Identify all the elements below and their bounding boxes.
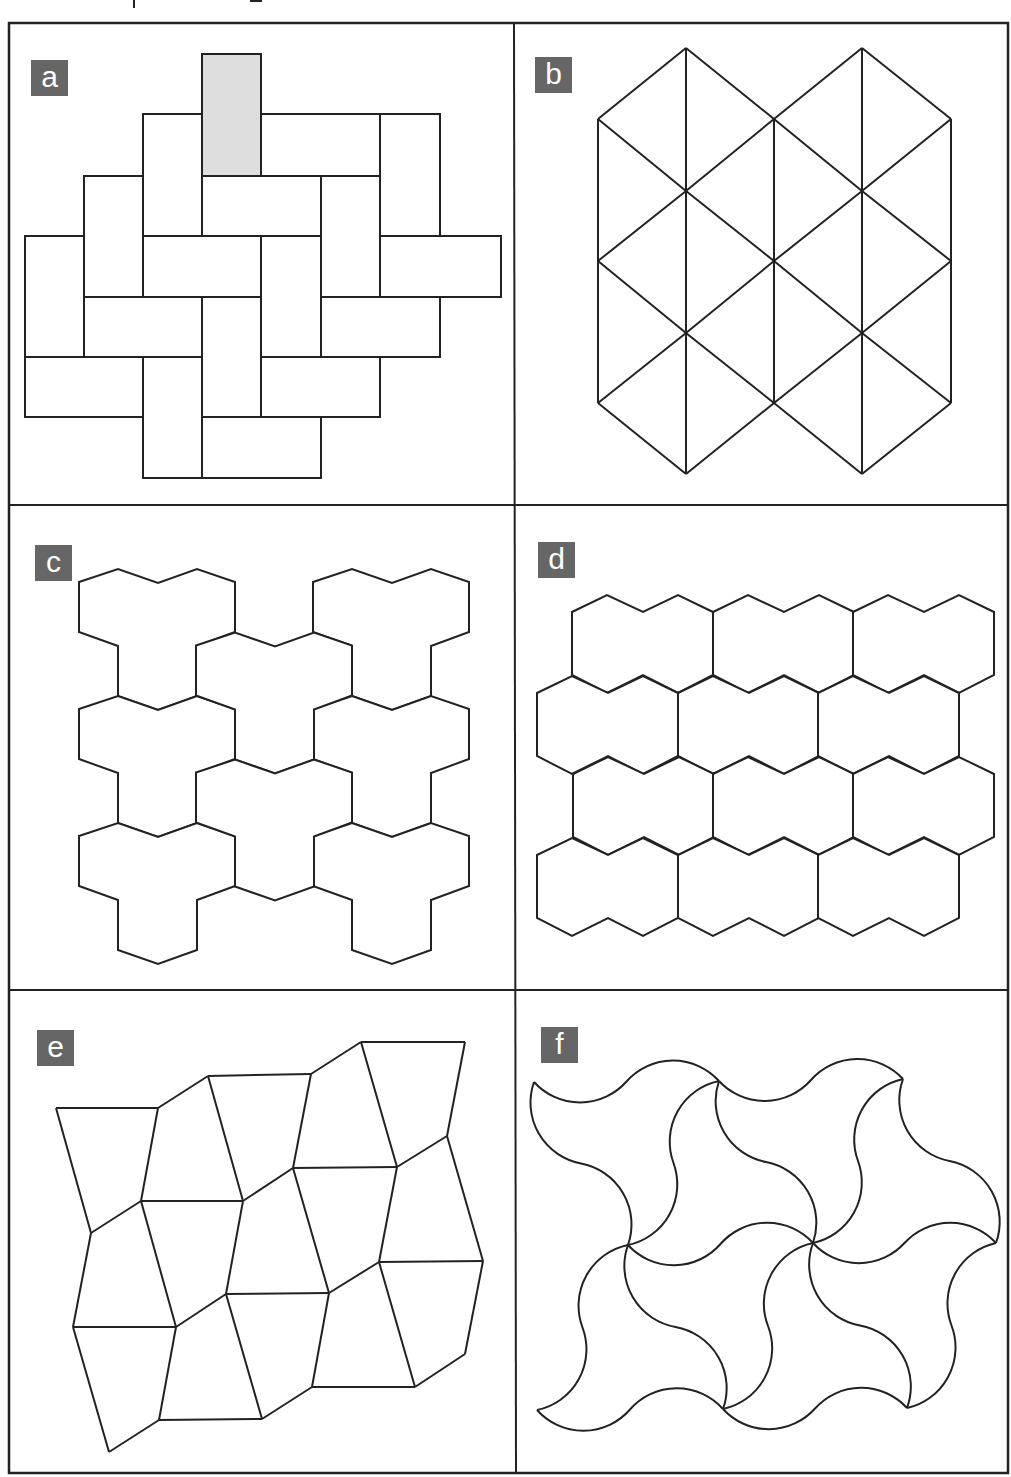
triangle-edge xyxy=(598,261,686,333)
panel-label-f: f xyxy=(541,1027,578,1063)
s-curve-edge xyxy=(899,1079,999,1243)
s-curve-edge xyxy=(537,1245,628,1410)
quad-edge xyxy=(329,1262,379,1293)
s-curve-edge xyxy=(716,1081,817,1243)
panel-label-d: d xyxy=(538,542,575,578)
rectangle-tile xyxy=(84,176,143,297)
rectangle-tile xyxy=(202,417,321,478)
rectangle-tile xyxy=(202,297,261,417)
panel-label-e: e xyxy=(37,1030,74,1066)
quad-edge xyxy=(311,1042,361,1074)
quad-edge xyxy=(262,1387,312,1419)
quad-edge xyxy=(312,1293,329,1387)
quad-edge xyxy=(293,1167,397,1168)
triangle-edge xyxy=(774,333,862,403)
quad-edge xyxy=(379,1262,415,1387)
s-curve-edge xyxy=(809,1243,911,1408)
triangle-edge xyxy=(774,48,862,119)
quad-edge xyxy=(208,1074,311,1076)
triangle-edge xyxy=(774,191,862,261)
rectangle-tile xyxy=(261,357,380,417)
s-curve-edge xyxy=(628,1081,719,1245)
quad-edge xyxy=(379,1167,397,1262)
s-curve-edge xyxy=(907,1243,996,1408)
s-curve-edge xyxy=(813,1079,903,1243)
rectangle-tile xyxy=(143,236,261,297)
quad-edge xyxy=(141,1201,176,1327)
triangle-edge xyxy=(862,48,951,119)
quad-edge xyxy=(293,1074,311,1168)
quad-edge xyxy=(56,1108,91,1233)
quad-edge xyxy=(379,1261,483,1262)
quad-edge xyxy=(361,1042,397,1167)
quad-edge xyxy=(243,1168,293,1201)
caption-descender-fragment xyxy=(133,0,135,8)
panel-f-curved-triangle-tiling xyxy=(530,1059,999,1431)
rectangle-tile xyxy=(261,114,380,176)
triangle-edge xyxy=(686,119,774,191)
rectangle-tile xyxy=(143,357,202,478)
quad-edge xyxy=(159,1419,262,1420)
figure-canvas xyxy=(0,0,1011,1477)
rectangle-tile xyxy=(84,297,202,357)
triangle-edge xyxy=(686,48,774,119)
triangle-edge xyxy=(598,48,686,119)
panel-d-zigzag-hexagon-tiles xyxy=(537,595,994,936)
s-curve-edge xyxy=(723,1243,813,1409)
panel-label-a: a xyxy=(31,60,68,96)
rectangle-tile xyxy=(261,236,321,357)
triangle-edge xyxy=(774,261,862,333)
quad-edge xyxy=(158,1076,208,1108)
rectangle-tile xyxy=(25,236,84,357)
panel-a-basketweave-rectangles xyxy=(25,54,501,478)
quad-edge xyxy=(109,1420,159,1452)
quad-edge xyxy=(447,1042,465,1136)
triangle-edge xyxy=(598,403,686,474)
quad-edge xyxy=(293,1168,329,1293)
s-curve-edge xyxy=(719,1059,903,1101)
s-curve-edge xyxy=(624,1245,726,1409)
caption-descender-fragment xyxy=(250,0,262,2)
quad-edge xyxy=(397,1136,447,1167)
quad-edge xyxy=(447,1136,483,1261)
panel-e-quadrilateral-tiling xyxy=(56,1042,483,1452)
s-curve-edge xyxy=(534,1061,719,1103)
quad-edge xyxy=(73,1327,109,1452)
quad-edge xyxy=(226,1201,243,1294)
quad-edge xyxy=(141,1108,158,1201)
triangle-edge xyxy=(598,119,686,191)
rectangle-tile xyxy=(25,357,143,417)
s-curve-edge xyxy=(628,1223,813,1265)
quad-edge xyxy=(159,1327,176,1420)
triangle-edge xyxy=(862,261,951,333)
triangle-edge xyxy=(862,333,951,403)
triangle-edge xyxy=(598,333,686,403)
panel-divider xyxy=(514,23,516,1473)
polygon-tile xyxy=(313,823,469,964)
polygon-tile xyxy=(79,823,235,964)
triangle-edge xyxy=(862,119,951,191)
rectangle-tile xyxy=(321,297,440,357)
panel-c-y-shaped-tiles xyxy=(79,569,469,964)
triangle-edge xyxy=(686,261,774,333)
quad-edge xyxy=(208,1076,243,1201)
triangle-edge xyxy=(686,333,774,403)
triangle-edge xyxy=(686,191,774,261)
triangle-edge xyxy=(598,191,686,261)
panel-label-c: c xyxy=(35,545,72,581)
triangle-edge xyxy=(862,191,951,261)
rectangle-tile xyxy=(202,176,321,236)
panel-label-b: b xyxy=(535,57,572,93)
quad-edge xyxy=(465,1261,483,1354)
s-curve-edge xyxy=(530,1082,631,1245)
rectangle-tile xyxy=(380,236,501,297)
quad-edge xyxy=(226,1293,329,1294)
triangle-edge xyxy=(862,403,951,474)
s-curve-edge xyxy=(723,1388,907,1429)
rectangle-tile xyxy=(321,176,380,297)
rectangle-tile xyxy=(143,114,202,236)
rectangle-tile xyxy=(380,114,440,236)
quad-edge xyxy=(73,1233,91,1327)
tiling-figure: a b c d e f xyxy=(0,0,1011,1477)
quad-edge xyxy=(226,1294,262,1419)
